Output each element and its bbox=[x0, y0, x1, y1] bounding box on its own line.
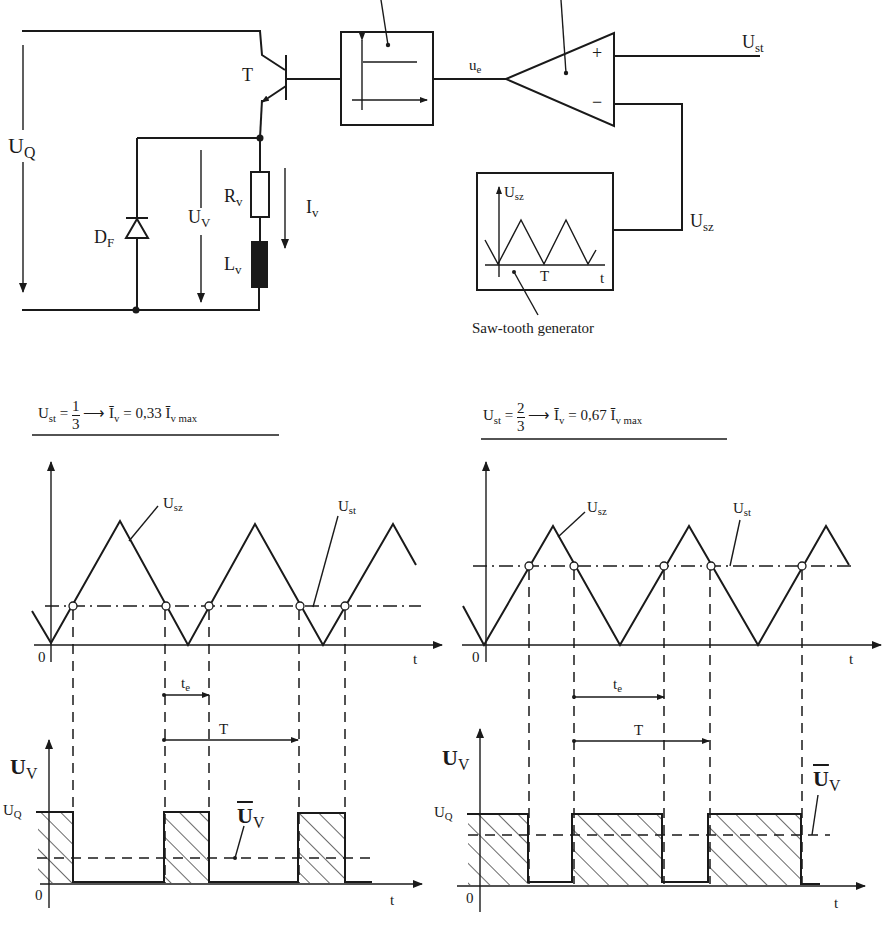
label-sawtooth-curve: Usz bbox=[587, 500, 607, 517]
leader-line bbox=[381, 0, 388, 45]
label-generator-t: t bbox=[600, 271, 604, 286]
label-on-time: te bbox=[181, 676, 190, 693]
label-transistor: T bbox=[242, 66, 253, 84]
label-uv-axis: UV bbox=[10, 756, 37, 782]
inductor bbox=[251, 241, 268, 288]
label-generator-y: Usz bbox=[504, 185, 524, 202]
label-mean-voltage: UV bbox=[813, 768, 840, 794]
label-time-axis: t bbox=[834, 896, 838, 911]
circuit bbox=[22, 0, 760, 315]
resistor bbox=[251, 172, 269, 217]
label-origin: 0 bbox=[35, 888, 43, 903]
left-heading: Ust = 13 ⟶ Īv = 0,33 Īv max bbox=[38, 398, 197, 432]
bottom-rail-wire bbox=[22, 288, 259, 310]
junction-node bbox=[133, 307, 140, 314]
right-panel-charts bbox=[457, 439, 881, 912]
label-on-time: te bbox=[613, 677, 622, 694]
label-origin: 0 bbox=[466, 891, 474, 906]
sawtooth-wire bbox=[613, 104, 682, 230]
right-heading: Ust = 23 ⟶ Īv = 0,67 Īv max bbox=[483, 400, 642, 434]
sawtooth-curve bbox=[463, 526, 849, 645]
label-uv-axis: UV bbox=[442, 747, 469, 773]
label-comparator-input: ue bbox=[469, 58, 481, 75]
label-op-amp-plus: + bbox=[592, 44, 602, 62]
label-control-voltage: Ust bbox=[742, 33, 764, 55]
label-period: T bbox=[634, 723, 643, 738]
freewheel-diode bbox=[126, 138, 148, 310]
label-mean-voltage: UV bbox=[237, 805, 264, 831]
leader-line bbox=[514, 272, 538, 315]
label-load-voltage: UV bbox=[188, 208, 210, 230]
label-control-line: Ust bbox=[733, 501, 751, 518]
label-control-line: Ust bbox=[338, 499, 356, 516]
label-sawtooth-voltage: Usz bbox=[690, 212, 714, 234]
sawtooth-curve bbox=[32, 521, 416, 645]
label-origin: 0 bbox=[472, 650, 480, 665]
sawtooth-icon bbox=[485, 220, 596, 264]
label-sawtooth-curve: Usz bbox=[163, 496, 183, 513]
label-time-axis: t bbox=[390, 893, 394, 908]
label-origin: 0 bbox=[38, 650, 46, 665]
generator-caption: Saw-tooth generator bbox=[472, 321, 594, 336]
label-current: Iv bbox=[306, 198, 318, 220]
leader-line bbox=[561, 0, 566, 73]
label-source-voltage: UQ bbox=[8, 135, 35, 161]
label-time-axis: t bbox=[413, 652, 417, 667]
label-uq-level: UQ bbox=[3, 803, 22, 820]
label-uq-level: UQ bbox=[434, 805, 453, 822]
label-resistor: Rv bbox=[224, 187, 243, 209]
label-diode: DF bbox=[94, 228, 114, 250]
left-panel-charts bbox=[32, 435, 442, 908]
label-generator-period: T bbox=[540, 269, 549, 284]
label-inductor: Lv bbox=[224, 255, 241, 277]
label-time-axis: t bbox=[849, 652, 853, 667]
transistor bbox=[260, 55, 340, 138]
label-period: T bbox=[219, 722, 228, 737]
pwm-diagram: UQ T DF UV Rv Lv Iv ue + − Ust Usz Usz T… bbox=[0, 0, 893, 942]
diagram-drawing bbox=[0, 0, 893, 942]
label-op-amp-minus: − bbox=[592, 93, 602, 111]
